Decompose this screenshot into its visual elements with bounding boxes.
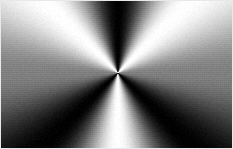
conic-gradient-raster: [0, 0, 233, 149]
image-canvas: [0, 0, 233, 149]
